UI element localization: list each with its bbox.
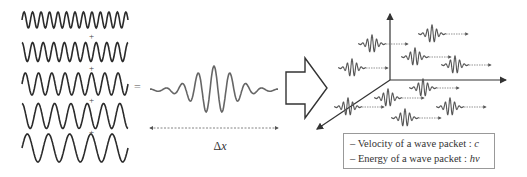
wave-packet-glyph [409,79,437,96]
legend-velocity: – Velocity of a wave packet : c [350,136,488,151]
wave-packet-glyph [358,35,386,52]
sine-wave [22,12,128,28]
legend-energy: – Energy of a wave packet : hν [350,151,488,166]
wave-packet [150,66,278,112]
wave-packet-diagram: ++++ = Δx – Velocity of a wave packet : … [0,0,527,177]
wave-packet-glyph [441,56,469,73]
delta-x-label: Δx [200,139,240,154]
equals-sign: = [134,80,141,94]
wave-packet-glyph [334,98,362,115]
moving-wave-packet [358,35,408,52]
propagating-wave-packets [334,25,491,126]
wave-packet-glyph [338,59,366,76]
wave-packet-glyph [418,25,446,42]
plus-sign: + [89,31,94,41]
moving-wave-packet [374,89,424,106]
moving-wave-packet [441,56,491,73]
right-block-arrow-icon [286,58,327,118]
component-sine-waves [22,12,128,162]
legend-velocity-text: – Velocity of a wave packet : [350,138,474,149]
sine-wave [22,73,128,95]
wave-packet-glyph [391,109,419,126]
wave-packet-glyph [436,98,464,115]
sine-wave [22,43,128,62]
legend-box: – Velocity of a wave packet : c – Energy… [343,133,495,169]
legend-energy-symbol: hν [470,153,480,164]
moving-wave-packet [391,109,441,126]
moving-wave-packet [338,59,388,76]
wave-packet-glyph [374,89,402,106]
sine-wave [22,104,128,129]
legend-energy-text: – Energy of a wave packet : [350,153,470,164]
plus-sign: + [89,127,94,137]
plus-sign: + [89,95,94,105]
moving-wave-packet [409,79,459,96]
moving-wave-packet [401,48,451,65]
sine-wave [22,134,128,162]
x-variable: x [221,139,226,153]
plus-sign: + [89,63,94,73]
moving-wave-packet [418,25,468,42]
plus-signs: ++++ [89,31,94,137]
moving-wave-packet [436,98,486,115]
central-wave-packet [150,66,278,112]
wave-packet-glyph [401,48,429,65]
legend-velocity-symbol: c [474,138,479,149]
